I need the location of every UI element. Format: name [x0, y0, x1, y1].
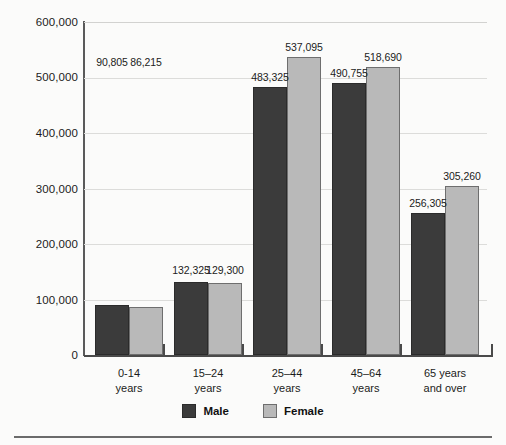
x-tick-separator-2: [242, 344, 244, 355]
bar-male-45-64: [332, 83, 366, 355]
y-tick-400000: 400,000: [8, 127, 78, 139]
x-tick-separator-1: [163, 344, 165, 355]
x-label-15-24-line2: years: [193, 381, 224, 396]
bar-male-65-over: [411, 213, 445, 355]
x-label-65-over-line2: and over: [424, 381, 467, 396]
value-label-female-65-over: 305,260: [443, 170, 480, 182]
legend-swatch-male-icon: [182, 404, 196, 418]
bar-female-0-14: [129, 307, 163, 355]
legend-label-female: Female: [284, 405, 324, 417]
bar-female-45-64: [366, 67, 400, 355]
y-tick-100000: 100,000: [8, 294, 78, 306]
legend-item-male: Male: [182, 404, 229, 418]
x-label-45-64: 45–64 years: [351, 366, 382, 396]
gridline-600000: [84, 22, 487, 23]
x-label-25-44-line2: years: [272, 381, 303, 396]
x-label-25-44: 25–44 years: [272, 366, 303, 396]
value-label-male-15-24: 132,325: [172, 264, 209, 276]
y-tick-500000: 500,000: [8, 71, 78, 83]
bar-female-65-over: [445, 186, 479, 355]
x-label-0-14-line1: 0-14: [116, 366, 143, 381]
x-label-15-24: 15–24 years: [193, 366, 224, 396]
value-label-female-15-24: 129,300: [206, 264, 243, 276]
x-label-65-over: 65 years and over: [424, 366, 467, 396]
x-tick-separator-3: [321, 344, 323, 355]
bar-male-15-24: [174, 282, 208, 356]
y-tick-300000: 300,000: [8, 183, 78, 195]
x-label-0-14-line2: years: [116, 381, 143, 396]
value-label-female-25-44: 537,095: [285, 41, 322, 53]
value-label-male-65-over: 256,305: [409, 197, 446, 209]
value-label-male-45-64: 490,755: [330, 67, 367, 79]
legend-swatch-female-icon: [263, 404, 277, 418]
x-tick-separator-4: [400, 344, 402, 355]
bar-female-15-24: [208, 283, 242, 355]
y-tick-200000: 200,000: [8, 238, 78, 250]
legend-label-male: Male: [203, 405, 229, 417]
x-axis-line: [84, 355, 493, 357]
value-label-male-25-44: 483,325: [251, 71, 288, 83]
bar-chart-figure: 600,000 500,000 400,000 300,000 200,000 …: [0, 0, 506, 445]
x-label-25-44-line1: 25–44: [272, 366, 303, 381]
x-label-65-over-line1: 65 years: [424, 366, 467, 381]
bottom-divider-rule: [14, 436, 492, 438]
chart-legend: Male Female: [0, 404, 506, 418]
y-tick-600000: 600,000: [8, 16, 78, 28]
x-label-0-14: 0-14 years: [116, 366, 143, 396]
x-label-15-24-line1: 15–24: [193, 366, 224, 381]
x-label-45-64-line2: years: [351, 381, 382, 396]
value-label-female-0-14: 86,215: [130, 56, 162, 68]
x-label-45-64-line1: 45–64: [351, 366, 382, 381]
bar-male-0-14: [95, 305, 129, 355]
plot-area: 90,805 86,215 132,325 129,300 483,325 53…: [84, 22, 492, 355]
legend-item-female: Female: [263, 404, 324, 418]
bar-female-25-44: [287, 57, 321, 355]
value-label-female-45-64: 518,690: [364, 51, 401, 63]
bar-male-25-44: [253, 87, 287, 355]
y-tick-0: 0: [8, 349, 78, 361]
value-label-male-0-14: 90,805: [96, 56, 128, 68]
y-axis-labels: 600,000 500,000 400,000 300,000 200,000 …: [0, 0, 78, 445]
